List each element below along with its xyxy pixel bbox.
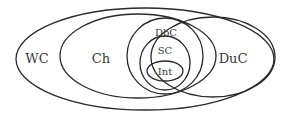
set-int-label: Int [158, 66, 172, 77]
set-dbc-label: DbC [155, 27, 177, 38]
venn-diagram: WC Ch DuC DbC SC Int [0, 0, 289, 114]
set-wc-label: WC [25, 51, 48, 66]
set-sc-label: SC [158, 45, 173, 56]
set-ch-label: Ch [92, 51, 111, 66]
set-duc-label: DuC [219, 51, 248, 66]
set-ch-ellipse [60, 14, 216, 98]
